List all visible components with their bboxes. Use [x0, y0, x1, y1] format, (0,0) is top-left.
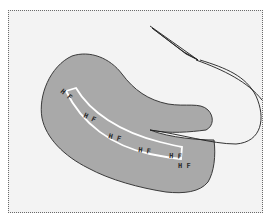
surgical-diagram: H FH FH FH FH FH F — [0, 0, 276, 223]
stitch-marker: H F — [169, 152, 182, 161]
tissue-flap — [41, 54, 215, 193]
needle-shaft — [150, 26, 198, 60]
stitch-marker: H F — [178, 162, 191, 170]
suture-thread-tail — [196, 60, 262, 100]
